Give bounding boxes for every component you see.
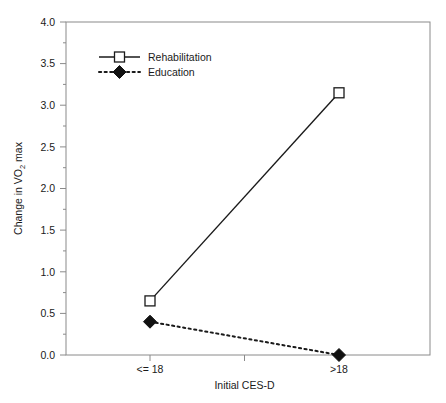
y-tick-label-2: 1.0 (40, 266, 55, 278)
y-axis-major-ticks (60, 22, 66, 355)
y-axis-title-pre: Change in VO (12, 169, 24, 235)
data-point-rehabilitation-1 (334, 88, 344, 98)
x-axis-title: Initial CES-D (214, 379, 275, 391)
y-tick-label-3: 1.5 (40, 224, 55, 236)
y-tick-label-5: 2.5 (40, 141, 55, 153)
y-tick-label-0: 0.0 (40, 349, 55, 361)
legend-label-rehabilitation: Rehabilitation (148, 51, 212, 63)
chart-figure: 0.0 0.5 1.0 1.5 2.0 2.5 3.0 3.5 4.0 Chan… (0, 0, 446, 403)
line-chart: 0.0 0.5 1.0 1.5 2.0 2.5 3.0 3.5 4.0 Chan… (0, 0, 446, 403)
y-tick-label-8: 4.0 (40, 16, 55, 28)
y-axis-title: Change in VO2 max (12, 141, 27, 235)
data-point-rehabilitation-0 (145, 296, 155, 306)
y-axis-title-post: max (12, 141, 24, 165)
y-tick-label-4: 2.0 (40, 182, 55, 194)
x-tick-label-1: >18 (330, 363, 348, 375)
legend-marker-open-square-icon (115, 52, 125, 62)
x-axis-ticks (150, 355, 339, 361)
legend-label-education: Education (148, 66, 195, 78)
x-tick-label-0: <= 18 (137, 363, 164, 375)
y-tick-label-7: 3.5 (40, 57, 55, 69)
y-tick-label-6: 3.0 (40, 99, 55, 111)
y-tick-label-1: 0.5 (40, 307, 55, 319)
